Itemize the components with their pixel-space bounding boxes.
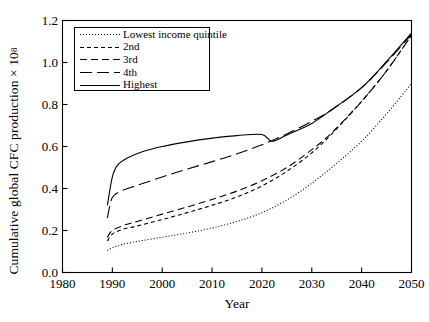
x-tick-label: 1980 [40,276,86,292]
chart-legend: Lowest income quintile2nd3rd4thHighest [74,27,210,91]
chart-figure: Cumulative global CFC production × 108 0… [0,0,429,322]
x-tick-label: 1990 [89,276,135,292]
legend-item: Highest [75,78,209,91]
legend-label: 2nd [121,41,140,52]
series-line-0 [107,84,411,251]
legend-line-sample [79,42,121,52]
legend-label: 3rd [121,54,138,65]
legend-label: Highest [121,79,157,90]
x-tick-label: 2040 [339,276,385,292]
x-tick-label: 2010 [189,276,235,292]
legend-line-sample [79,80,121,90]
legend-label: Lowest income quintile [121,29,227,40]
x-tick-label: 2050 [389,276,429,292]
legend-item: 3rd [75,53,209,66]
x-tick-label: 2000 [139,276,185,292]
x-tick-label: 2020 [239,276,285,292]
legend-line-sample [79,29,121,39]
x-tick-label: 2030 [289,276,335,292]
legend-item: 2nd [75,41,209,54]
legend-item: 4th [75,66,209,79]
x-axis-ticks [63,268,412,273]
y-axis-ticks [63,21,68,273]
legend-label: 4th [121,67,137,78]
legend-item: Lowest income quintile [75,28,209,41]
legend-line-sample [79,67,121,77]
x-axis-label: Year [62,296,412,312]
legend-line-sample [79,54,121,64]
plot-canvas [0,0,429,322]
